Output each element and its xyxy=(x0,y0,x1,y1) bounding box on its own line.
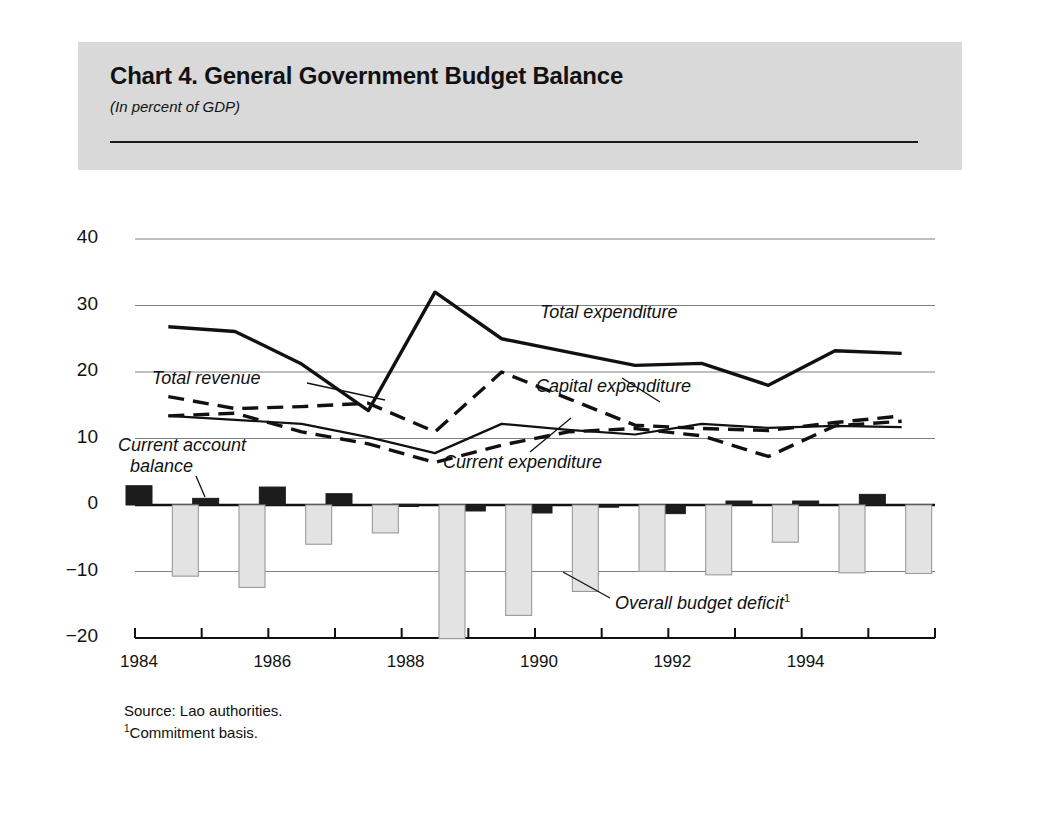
bar-overall-budget-deficit-1988 xyxy=(439,505,465,639)
series-total-expenditure xyxy=(168,292,901,410)
annotation-leader-1 xyxy=(196,476,205,497)
bar-overall-budget-deficit-1994 xyxy=(839,505,865,573)
bar-current-account-balance-1995 xyxy=(859,494,885,505)
bar-overall-budget-deficit-1984 xyxy=(172,505,198,576)
annotation-overall-budget-deficit-text: Overall budget deficit xyxy=(615,593,784,613)
source-line: Source: Lao authorities. xyxy=(124,700,282,722)
annotation-overall-budget-deficit: Overall budget deficit1 xyxy=(615,592,790,613)
source-block: Source: Lao authorities. 1Commitment bas… xyxy=(124,700,282,744)
footnote-line: 1Commitment basis. xyxy=(124,722,282,744)
bar-current-account-balance-1987 xyxy=(326,494,352,505)
chart-canvas xyxy=(0,0,1043,814)
bar-overall-budget-deficit-1985 xyxy=(239,505,265,587)
bar-overall-budget-deficit-1991 xyxy=(639,505,665,572)
bar-overall-budget-deficit-1986 xyxy=(306,505,332,544)
bar-overall-budget-deficit-1990 xyxy=(572,505,598,591)
bar-overall-budget-deficit-1987 xyxy=(372,505,398,533)
bar-current-account-balance-1986 xyxy=(259,487,285,505)
bar-overall-budget-deficit-1992 xyxy=(706,505,732,575)
annotation-total-expenditure: Total expenditure xyxy=(540,302,677,322)
annotation-overall-budget-deficit-marker: 1 xyxy=(784,592,790,604)
annotation-current-account-balance-line2: balance xyxy=(130,456,193,476)
bar-overall-budget-deficit-1989 xyxy=(506,505,532,615)
annotation-capital-expenditure: Capital expenditure xyxy=(536,376,691,396)
bar-current-account-balance-1994 xyxy=(793,501,819,505)
bar-overall-budget-deficit-1993 xyxy=(772,505,798,542)
bar-current-account-balance-1984 xyxy=(126,486,152,505)
annotation-current-account-balance-line1: Current account xyxy=(118,435,246,455)
footnote-text: Commitment basis. xyxy=(130,724,258,741)
annotation-leader-3 xyxy=(530,418,571,452)
bar-current-account-balance-1993 xyxy=(726,501,752,505)
annotation-current-expenditure: Current expenditure xyxy=(443,452,602,472)
bar-current-account-balance-1985 xyxy=(193,498,219,505)
chart-page: Chart 4. General Government Budget Balan… xyxy=(0,0,1043,814)
annotation-leader-0 xyxy=(307,383,385,400)
annotation-total-revenue: Total revenue xyxy=(152,368,260,388)
bar-overall-budget-deficit-1995 xyxy=(906,505,932,573)
